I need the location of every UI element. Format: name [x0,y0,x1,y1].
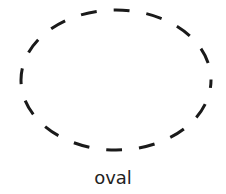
shape-label: oval [0,168,226,188]
dashed-oval-shape [0,0,226,194]
